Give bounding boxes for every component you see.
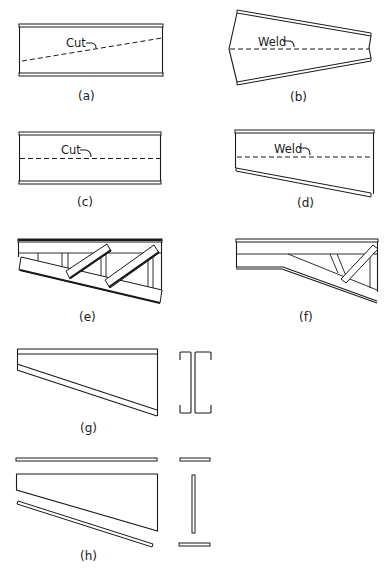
panel-label-f: (f) (299, 310, 313, 324)
tapered-web-plate (17, 474, 158, 531)
panel-label-a: (a) (78, 89, 95, 103)
panel-label-g: (g) (80, 421, 97, 435)
panel-label-c: (c) (77, 195, 93, 209)
inclined-flange-lower (17, 370, 157, 416)
cut-line (22, 38, 162, 61)
panel-h: (h) (16, 458, 210, 563)
web-right-edge (369, 36, 371, 58)
channel-section-left (180, 352, 191, 413)
panel-label-h: (h) (80, 549, 97, 563)
panel-g: (g) (17, 349, 211, 435)
top-flange-plate (16, 458, 157, 461)
top-flange (235, 130, 374, 133)
top-flange (19, 24, 163, 27)
section-web (192, 475, 195, 533)
cut-annotation: Cut (66, 36, 86, 50)
cut-annotation: Cut (61, 143, 81, 157)
panel-label-e: (e) (79, 310, 96, 324)
web-left-edge (229, 13, 237, 82)
bottom-flange (237, 58, 371, 85)
leader-arrow-icon (86, 43, 96, 48)
leader-arrow-icon (80, 150, 91, 157)
diagonal-member (341, 245, 378, 283)
panel-c: Cut (c) (19, 132, 161, 209)
bottom-flange (19, 181, 161, 184)
panel-a: Cut (a) (19, 24, 163, 103)
panel-label-d: (d) (297, 196, 314, 210)
bottom-flange (19, 73, 163, 76)
top-flange (19, 132, 161, 135)
panel-d: Weld (d) (235, 130, 374, 210)
tapered-beam-fabrication-diagram: Cut (a) Weld (b) Cut (c) Weld (d) (0, 0, 392, 568)
section-bottom-flange (179, 543, 210, 546)
panel-e: (e) (18, 239, 162, 324)
diagonal-shadow (109, 252, 159, 287)
panel-f: (f) (236, 239, 378, 324)
top-flange (236, 239, 378, 242)
top-flange (237, 10, 371, 36)
weld-annotation: Weld (274, 142, 302, 156)
panel-b: Weld (b) (229, 10, 371, 104)
brace (330, 254, 338, 273)
inclined-bottom-flange (236, 168, 371, 197)
panel-label-b: (b) (290, 90, 307, 104)
weld-annotation: Weld (258, 35, 286, 49)
inclined-flange-upper (17, 364, 157, 410)
diagonal-member (105, 245, 159, 288)
haunch-bottom-flange-lower (236, 269, 377, 303)
section-top-flange (180, 458, 210, 461)
channel-section-right (195, 352, 211, 413)
